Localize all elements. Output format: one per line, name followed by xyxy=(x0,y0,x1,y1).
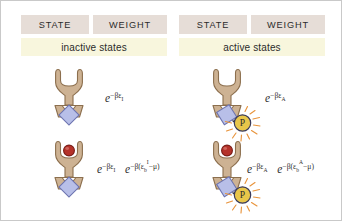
weight-formula-inactive-bound: e−βεI e−β(εbI−μ) xyxy=(97,161,160,176)
header-weight-inactive: WEIGHT xyxy=(93,15,167,34)
weight-cell-active-bound: e−βεA e−β(εbA−μ) xyxy=(247,133,342,203)
ligand-highlight xyxy=(65,147,69,150)
header-weight-active-label: WEIGHT xyxy=(267,20,309,30)
header-weight-active: WEIGHT xyxy=(251,15,325,34)
weight-cell-inactive-bound: e−βεI e−β(εbI−μ) xyxy=(97,133,179,203)
weight-cell-inactive-unbound: e−βεI xyxy=(105,63,175,133)
header-state-inactive-label: STATE xyxy=(39,20,72,30)
band-active-states: active states xyxy=(179,38,325,56)
header-state-inactive: STATE xyxy=(21,15,89,34)
header-state-active: STATE xyxy=(179,15,247,34)
band-active-states-label: active states xyxy=(223,42,281,53)
receptor-body-shape xyxy=(214,70,241,106)
header-row: STATE WEIGHT STATE WEIGHT xyxy=(1,15,342,34)
weight-cell-active-unbound: e−βεA xyxy=(265,63,337,133)
receptor-glyph xyxy=(43,65,103,131)
band-inactive-states-label: inactive states xyxy=(61,42,127,53)
header-weight-inactive-label: WEIGHT xyxy=(109,20,151,30)
phosphate-label: P xyxy=(240,118,245,128)
ligand-ball xyxy=(222,145,233,156)
receptor-inactive-bound xyxy=(43,137,103,203)
receptor-body-shape xyxy=(56,70,83,106)
receptor-inactive-unbound xyxy=(43,65,103,131)
receptor-glyph xyxy=(43,137,103,203)
weight-formula-active-bound: e−βεA e−β(εbA−μ) xyxy=(247,161,314,176)
ligand-ball xyxy=(64,145,75,156)
band-inactive-states: inactive states xyxy=(21,38,167,56)
weight-formula-inactive-unbound: e−βεI xyxy=(105,91,123,104)
ligand-highlight xyxy=(223,147,227,150)
header-state-active-label: STATE xyxy=(197,20,230,30)
weight-formula-active-unbound: e−βεA xyxy=(265,91,286,104)
phosphate-label: P xyxy=(240,190,245,200)
figure-panel: STATE WEIGHT STATE WEIGHT inactive state… xyxy=(0,0,342,221)
